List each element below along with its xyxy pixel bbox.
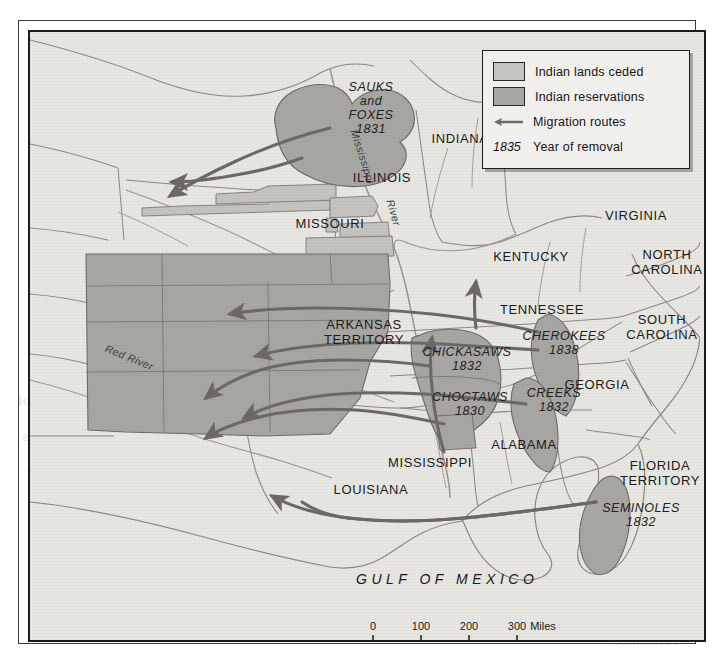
legend-swatch-ceded xyxy=(493,62,525,81)
scale-miles-tick-200: 200 xyxy=(460,620,478,632)
legend-year-sample: 1835 xyxy=(493,140,523,154)
migration-arrow-icon xyxy=(493,113,523,130)
legend-item-reservations: Indian reservations xyxy=(493,84,679,109)
scale-bar: 0100200300Miles 0100200300Kilometers xyxy=(365,620,555,642)
scale-bar-graphic xyxy=(365,634,555,642)
legend-label-migration-routes: Migration routes xyxy=(533,115,626,129)
scale-miles-labels: 0100200300Miles xyxy=(365,620,555,634)
legend-label-year-of-removal: Year of removal xyxy=(533,140,623,154)
scale-miles-unit: Miles xyxy=(530,620,556,632)
map-legend: Indian lands ceded Indian reservations M… xyxy=(482,50,690,169)
legend-swatch-reservations xyxy=(493,87,525,106)
scale-miles-tick-0: 0 xyxy=(370,620,376,632)
scale-miles-tick-100: 100 xyxy=(412,620,430,632)
legend-label-ceded: Indian lands ceded xyxy=(535,65,644,79)
legend-label-reservations: Indian reservations xyxy=(535,90,644,104)
map-frame: INDIANAILLINOISMISSOURIVIRGINIAKENTUCKYT… xyxy=(28,30,706,642)
scale-miles-tick-300: 300 xyxy=(508,620,526,632)
legend-item-migration-routes: Migration routes xyxy=(493,109,679,134)
legend-item-year-of-removal: 1835 Year of removal xyxy=(493,134,679,159)
legend-item-ceded: Indian lands ceded xyxy=(493,59,679,84)
map-figure: INDIANAILLINOISMISSOURIVIRGINIAKENTUCKYT… xyxy=(18,8,704,656)
